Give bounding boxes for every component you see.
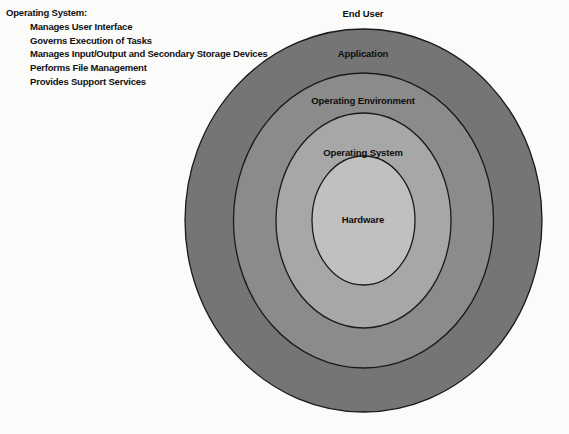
list-item: Manages User Interface xyxy=(6,20,286,34)
notes-list: Manages User Interface Governs Execution… xyxy=(6,20,286,89)
ring-label-application: Application xyxy=(263,48,463,59)
ring-label-operating-environment: Operating Environment xyxy=(253,95,473,106)
list-item: Provides Support Services xyxy=(6,75,286,89)
ring-label-operating-system: Operating System xyxy=(263,147,463,158)
operating-system-notes: Operating System: Manages User Interface… xyxy=(6,6,286,89)
ring-label-hardware: Hardware xyxy=(283,214,443,225)
notes-title: Operating System: xyxy=(6,6,286,20)
list-item: Performs File Management xyxy=(6,61,286,75)
list-item: Manages Input/Output and Secondary Stora… xyxy=(6,47,286,61)
list-item: Governs Execution of Tasks xyxy=(6,34,286,48)
ring-label-end-user: End User xyxy=(263,8,463,19)
